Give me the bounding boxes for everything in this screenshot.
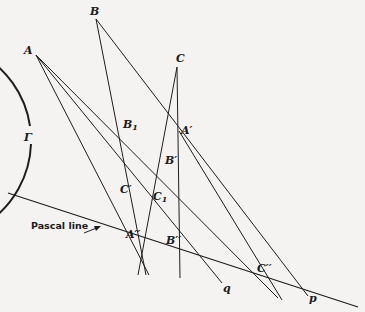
pascal-diagram: B A C Γ B1 A′ B′ C′ C1 A′′ B′′ C′′ q p P…: [0, 0, 365, 312]
label-gamma: Γ: [23, 131, 33, 144]
line-A-Bprime: [36, 55, 222, 283]
line-A-Cdprime: [36, 55, 278, 298]
label-B-prime: B′: [164, 154, 177, 167]
label-A: A: [23, 44, 33, 57]
label-C1: C1: [153, 190, 167, 204]
label-p: p: [309, 292, 317, 305]
arrowhead-icon: [94, 226, 101, 231]
label-C-prime: C′: [120, 183, 132, 196]
label-C-dprime: C′′: [257, 262, 272, 275]
pascal-line-label: Pascal line: [31, 220, 88, 231]
label-B-dprime: B′′: [165, 234, 181, 247]
pascal-line: [8, 193, 358, 307]
label-A-prime: A′: [180, 124, 193, 137]
label-A-dprime: A′′: [125, 228, 140, 241]
line-A-Cprime: [36, 55, 149, 275]
label-B: B: [89, 5, 99, 18]
label-q: q: [223, 282, 231, 295]
label-C: C: [176, 52, 185, 65]
line-B-p: [96, 19, 308, 296]
label-B1: B1: [122, 118, 138, 132]
